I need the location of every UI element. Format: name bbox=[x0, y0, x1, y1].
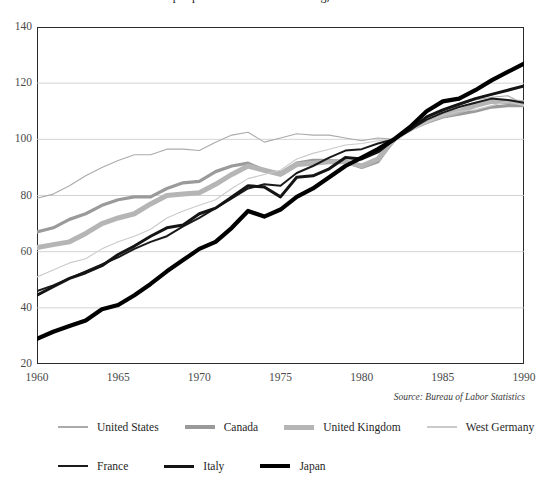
legend-item-united-states[interactable]: United States bbox=[58, 421, 159, 433]
legend-label: United Kingdom bbox=[323, 421, 401, 433]
y-tick-label: 120 bbox=[0, 77, 32, 89]
x-tick-label: 1970 bbox=[175, 372, 223, 384]
legend-item-united-kingdom[interactable]: United Kingdom bbox=[284, 421, 401, 433]
legend-item-japan[interactable]: Japan bbox=[260, 460, 325, 472]
legend-item-france[interactable]: France bbox=[58, 460, 128, 472]
series-line-west-germany bbox=[37, 101, 524, 277]
legend-item-italy[interactable]: Italy bbox=[164, 460, 224, 472]
x-tick-label: 1960 bbox=[13, 372, 61, 384]
legend-row-secondary: FranceItalyJapan bbox=[58, 460, 326, 472]
chart-title: Output per Hour in Manufacturing, 1960-1… bbox=[0, 0, 541, 4]
y-tick-label: 20 bbox=[0, 358, 32, 370]
source-note: Source: Bureau of Labor Statistics bbox=[394, 392, 525, 402]
y-tick-label: 100 bbox=[0, 133, 32, 145]
x-tick-label: 1990 bbox=[500, 372, 541, 384]
legend-swatch-icon bbox=[58, 426, 88, 427]
y-tick-label: 60 bbox=[0, 246, 32, 258]
legend-label: Italy bbox=[203, 460, 224, 472]
legend-label: Canada bbox=[224, 421, 258, 433]
legend-label: West Germany bbox=[466, 421, 534, 433]
x-tick-label: 1975 bbox=[257, 372, 305, 384]
legend-swatch-icon bbox=[185, 425, 215, 428]
legend-row-primary: United StatesCanadaUnited KingdomWest Ge… bbox=[58, 421, 534, 433]
series-line-united-kingdom bbox=[37, 101, 524, 247]
x-tick-label: 1985 bbox=[419, 372, 467, 384]
legend-swatch-icon bbox=[58, 465, 88, 467]
legend-swatch-icon bbox=[427, 426, 457, 427]
chart-page: Output per Hour in Manufacturing, 1960-1… bbox=[0, 0, 541, 491]
legend-swatch-icon bbox=[164, 465, 194, 468]
y-tick-label: 140 bbox=[0, 21, 32, 33]
series-line-canada bbox=[37, 106, 524, 232]
y-tick-label: 80 bbox=[0, 190, 32, 202]
legend-item-canada[interactable]: Canada bbox=[185, 421, 258, 433]
legend-swatch-icon bbox=[260, 464, 290, 468]
legend-item-west-germany[interactable]: West Germany bbox=[427, 421, 534, 433]
x-tick-label: 1980 bbox=[338, 372, 386, 384]
legend-label: France bbox=[97, 460, 128, 472]
legend-label: Japan bbox=[299, 460, 325, 472]
legend-swatch-icon bbox=[284, 425, 314, 430]
chart-plot bbox=[37, 27, 524, 364]
x-tick-label: 1965 bbox=[94, 372, 142, 384]
series-line-italy bbox=[37, 86, 524, 295]
legend-label: United States bbox=[97, 421, 159, 433]
y-tick-label: 40 bbox=[0, 302, 32, 314]
